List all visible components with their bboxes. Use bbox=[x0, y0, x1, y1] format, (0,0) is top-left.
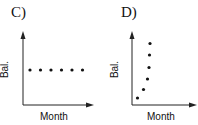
y-axis-label-d: Bal. bbox=[109, 61, 120, 78]
chart-panel-c: C) Bal. Month bbox=[0, 0, 99, 125]
chart-c-plot bbox=[0, 0, 99, 125]
x-axis-label-c: Month bbox=[40, 111, 68, 122]
chart-panel-d: D) Bal. Month bbox=[99, 0, 198, 125]
y-axis-label-c: Bal. bbox=[0, 61, 10, 78]
x-axis-label-d: Month bbox=[147, 111, 175, 122]
